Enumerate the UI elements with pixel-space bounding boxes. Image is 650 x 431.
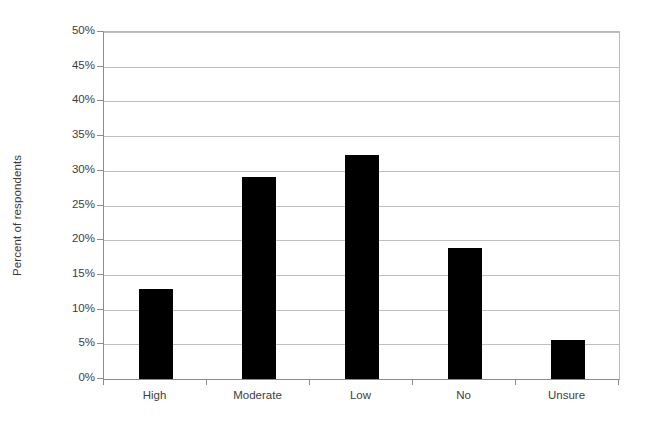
- bar-chart-figure: Percent of respondents 0%5%10%15%20%25%3…: [0, 0, 650, 431]
- y-axis-tick-label: 5%: [47, 336, 95, 350]
- bar: [448, 248, 482, 379]
- x-axis-tick-mark: [515, 379, 516, 385]
- x-axis-tick-mark: [103, 379, 104, 385]
- bar: [345, 155, 379, 379]
- y-axis-tick-label: 35%: [47, 128, 95, 142]
- y-axis-tick-label: 25%: [47, 198, 95, 212]
- x-axis-tick-label-group: HighModerateLowNoUnsure: [103, 389, 618, 409]
- y-axis-tick-label: 20%: [47, 232, 95, 246]
- x-axis-tick-mark: [206, 379, 207, 385]
- x-axis-tick-mark-group: [103, 379, 619, 385]
- x-axis-tick-label: Low: [309, 389, 412, 401]
- y-axis-tick-label: 45%: [47, 59, 95, 73]
- x-axis-tick-mark: [618, 379, 619, 385]
- x-axis-tick-mark: [412, 379, 413, 385]
- x-axis-tick-label: High: [103, 389, 206, 401]
- x-axis-tick-label: No: [412, 389, 515, 401]
- bar: [551, 340, 585, 379]
- x-axis-tick-label: Moderate: [206, 389, 309, 401]
- y-axis-tick-label: 10%: [47, 302, 95, 316]
- x-axis-tick-mark: [309, 379, 310, 385]
- x-axis-tick-label: Unsure: [515, 389, 618, 401]
- y-axis-title: Percent of respondents: [0, 0, 34, 431]
- bar-series-group: [104, 32, 619, 379]
- y-axis-tick-label: 40%: [47, 93, 95, 107]
- bar: [139, 289, 173, 379]
- bar: [242, 177, 276, 379]
- y-axis-tick-label-group: 0%5%10%15%20%25%30%35%40%45%50%: [47, 31, 95, 378]
- y-axis-tick-label: 15%: [47, 267, 95, 281]
- plot-area: [103, 31, 620, 380]
- y-axis-tick-label: 50%: [47, 24, 95, 38]
- y-axis-tick-label: 0%: [47, 371, 95, 385]
- y-axis-tick-label: 30%: [47, 163, 95, 177]
